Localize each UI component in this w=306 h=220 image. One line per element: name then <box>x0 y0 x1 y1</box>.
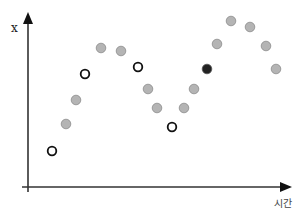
x-axis-label: 시간 <box>274 195 292 210</box>
data-point-gray <box>261 41 271 51</box>
axes <box>22 12 292 192</box>
data-point-gray <box>71 95 81 105</box>
data-point-open <box>168 123 177 132</box>
data-point-gray <box>152 103 162 113</box>
data-point-dark <box>202 64 212 74</box>
data-point-gray <box>116 46 126 56</box>
data-point-gray <box>143 84 153 94</box>
scatter-chart <box>0 0 306 220</box>
data-point-gray <box>179 103 189 113</box>
data-point-gray <box>61 119 71 129</box>
data-point-gray <box>189 84 199 94</box>
data-point-open <box>48 147 57 156</box>
y-axis-label: x <box>11 21 18 35</box>
data-point-open <box>81 70 90 79</box>
data-point-gray <box>271 64 281 74</box>
data-point-gray <box>96 43 106 53</box>
data-point-open <box>134 63 143 72</box>
data-point-gray <box>245 22 255 32</box>
data-points <box>48 16 281 155</box>
y-axis-arrowhead <box>23 12 33 24</box>
x-axis-arrowhead <box>280 182 292 192</box>
data-point-gray <box>226 16 236 26</box>
data-point-gray <box>212 39 222 49</box>
